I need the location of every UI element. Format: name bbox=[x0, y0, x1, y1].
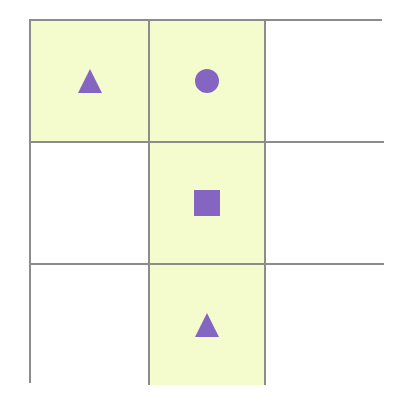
grid-cell-r0-c1 bbox=[150, 21, 266, 143]
triangle-icon bbox=[194, 312, 220, 338]
circle-icon bbox=[194, 68, 220, 94]
grid-cell-r0-c2 bbox=[266, 21, 384, 143]
square-icon bbox=[194, 190, 220, 216]
grid-cell-r2-c2 bbox=[266, 265, 384, 385]
grid-cell-r2-c1 bbox=[150, 265, 266, 385]
grid-cell-r0-c0 bbox=[31, 21, 150, 143]
grid-cell-r1-c1 bbox=[150, 143, 266, 265]
triangle-icon bbox=[77, 68, 103, 94]
grid-cell-r1-c0 bbox=[31, 143, 150, 265]
grid-cell-r1-c2 bbox=[266, 143, 384, 265]
grid-cell-r2-c0 bbox=[31, 265, 150, 385]
shape-grid bbox=[29, 19, 382, 383]
